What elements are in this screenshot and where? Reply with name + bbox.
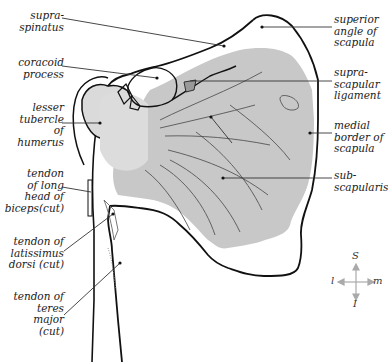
compass-inferior: I	[353, 298, 357, 309]
label-suprascapular-ligament: supra- scapular ligament	[334, 67, 381, 102]
label-superior-angle-of-scapula: superior angle of scapula	[334, 14, 379, 49]
compass-medial: m	[373, 275, 382, 286]
humerus-left-edge	[92, 130, 96, 362]
biceps-tendon	[88, 180, 92, 216]
label-lesser-tubercle-of-humerus: lesser tubercle of humerus	[17, 102, 64, 148]
label-tendon-of-latissimus-dorsi: tendon of latissimus dorsi (cut)	[9, 236, 64, 271]
orientation-compass-arrows	[338, 264, 374, 300]
compass-lateral: l	[331, 275, 334, 286]
label-supraspinatus: supra- spinatus	[19, 10, 64, 33]
label-medial-border-of-scapula: medial border of scapula	[334, 120, 384, 155]
compass-superior: S	[352, 250, 359, 261]
suprascapular-notch	[184, 80, 196, 92]
label-tendon-of-long-head-of-biceps: tendon of long head of biceps(cut)	[5, 168, 64, 214]
label-tendon-of-teres-major: tendon of teres major (cut)	[13, 291, 64, 337]
label-subscapularis: sub- scapularis	[334, 170, 388, 193]
label-coracoid-process: coracoid process	[18, 57, 64, 80]
